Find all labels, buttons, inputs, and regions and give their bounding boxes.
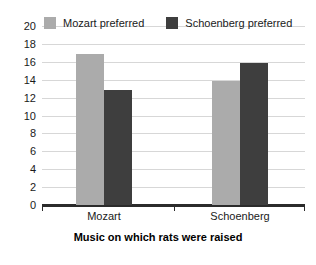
bar-chart: Mozart preferred Schoenberg preferred 20… <box>0 0 316 265</box>
bar-mozart-mozart <box>76 54 104 205</box>
x-axis-title: Music on which rats were raised <box>0 231 316 243</box>
legend-label-mozart-preferred: Mozart preferred <box>63 17 144 29</box>
bar-schoenberg-schoenberg <box>240 63 268 205</box>
bar-mozart-schoenberg <box>104 90 132 205</box>
plot-area: 20181614121086420 <box>42 26 305 205</box>
y-axis-tick-label: 8 <box>30 127 36 139</box>
legend-item-mozart-preferred: Mozart preferred <box>44 17 144 29</box>
x-axis-category-label: Mozart <box>87 210 121 222</box>
gridline <box>42 44 305 45</box>
y-axis-tick-label: 10 <box>24 110 36 122</box>
legend-item-schoenberg-preferred: Schoenberg preferred <box>166 17 292 29</box>
x-axis-category-label: Schoenberg <box>210 210 269 222</box>
legend-label-schoenberg-preferred: Schoenberg preferred <box>185 17 292 29</box>
y-axis-tick-label: 12 <box>24 92 36 104</box>
y-axis-tick-label: 14 <box>24 74 36 86</box>
y-axis-tick-label: 18 <box>24 38 36 50</box>
y-axis-tick-label: 2 <box>30 181 36 193</box>
x-axis-labels: MozartSchoenberg <box>42 210 305 226</box>
y-axis-tick-label: 20 <box>24 20 36 32</box>
y-axis-tick-label: 6 <box>30 145 36 157</box>
y-axis-tick-label: 16 <box>24 56 36 68</box>
legend-swatch-icon-mozart-preferred <box>44 17 56 29</box>
chart-legend: Mozart preferred Schoenberg preferred <box>44 14 292 32</box>
y-axis-tick-label: 4 <box>30 163 36 175</box>
bar-schoenberg-mozart <box>212 81 240 205</box>
legend-swatch-icon-schoenberg-preferred <box>166 17 178 29</box>
y-axis-tick-label: 0 <box>30 199 36 211</box>
